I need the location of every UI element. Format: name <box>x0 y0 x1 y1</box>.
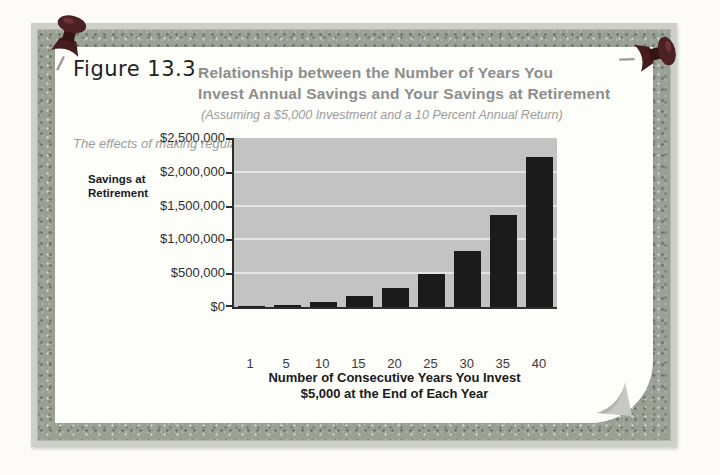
y-tick-mark <box>226 273 232 275</box>
y-tick-label: $1,500,000 <box>105 198 225 213</box>
page-curl <box>596 381 634 417</box>
bar-years-5 <box>274 305 301 307</box>
y-tick-label: $2,500,000 <box>105 130 225 145</box>
x-axis-tick-labels: 1510152025303540 <box>232 356 557 371</box>
bar-years-25 <box>418 274 445 307</box>
bar-years-20 <box>382 288 409 307</box>
bar-chart-plot-area <box>232 138 557 309</box>
bar-years-15 <box>346 296 373 307</box>
figure-number-label: Figure 13.3 <box>73 57 196 81</box>
y-tick-label: $2,000,000 <box>105 164 225 179</box>
x-tick-label: 25 <box>413 356 449 371</box>
x-axis-title-line2: $5,000 at the End of Each Year <box>232 386 557 402</box>
y-tick-mark <box>226 239 232 241</box>
bar-years-40 <box>526 157 553 307</box>
y-tick-label: $1,000,000 <box>105 231 225 246</box>
gridline <box>234 171 557 173</box>
book-page: Figure 13.3 Relationship between the Num… <box>0 0 720 475</box>
y-tick-mark <box>226 172 232 174</box>
x-tick-label: 20 <box>376 356 412 371</box>
y-tick-mark <box>226 138 232 140</box>
x-axis-title-line1: Number of Consecutive Years You Invest <box>232 370 557 386</box>
figure-paper: Figure 13.3 Relationship between the Num… <box>55 47 653 423</box>
figure-title-line2: Invest Annual Savings and Your Savings a… <box>198 83 610 104</box>
figure-subtitle: (Assuming a $5,000 Investment and a 10 P… <box>201 108 563 122</box>
x-axis-title: Number of Consecutive Years You Invest $… <box>232 370 557 402</box>
gridline <box>234 205 557 207</box>
x-tick-label: 1 <box>232 356 268 371</box>
y-tick-label: $0 <box>105 299 225 314</box>
x-tick-label: 15 <box>340 356 376 371</box>
figure-title-line1: Relationship between the Number of Years… <box>198 62 610 83</box>
bar-years-1 <box>238 306 265 307</box>
y-tick-mark <box>226 206 232 208</box>
x-tick-label: 40 <box>521 356 557 371</box>
y-tick-mark <box>226 305 232 307</box>
x-tick-label: 5 <box>268 356 304 371</box>
y-tick-label: $500,000 <box>105 265 225 280</box>
bar-years-10 <box>310 302 337 307</box>
x-tick-label: 30 <box>449 356 485 371</box>
figure-title: Relationship between the Number of Years… <box>198 62 610 104</box>
x-tick-label: 10 <box>304 356 340 371</box>
x-tick-label: 35 <box>485 356 521 371</box>
corkboard-frame: Figure 13.3 Relationship between the Num… <box>31 23 677 447</box>
bar-years-30 <box>454 251 481 307</box>
bar-years-35 <box>490 215 517 307</box>
